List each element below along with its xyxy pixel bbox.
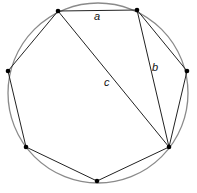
vertex: [95, 179, 100, 184]
label-b: b: [152, 61, 158, 73]
vertex: [185, 69, 190, 74]
vertex: [56, 9, 61, 14]
vertex: [135, 8, 140, 13]
vertex: [6, 69, 11, 74]
circumscribed-circle: [8, 3, 188, 183]
heptagon-diagram: a b c: [0, 0, 197, 193]
vertex: [24, 145, 29, 150]
heptagon-edges: [8, 10, 187, 181]
vertex: [167, 145, 172, 150]
diagonal-b: [137, 10, 169, 147]
label-a: a: [94, 10, 100, 22]
diagonal-c: [58, 11, 169, 147]
label-c: c: [104, 76, 110, 88]
